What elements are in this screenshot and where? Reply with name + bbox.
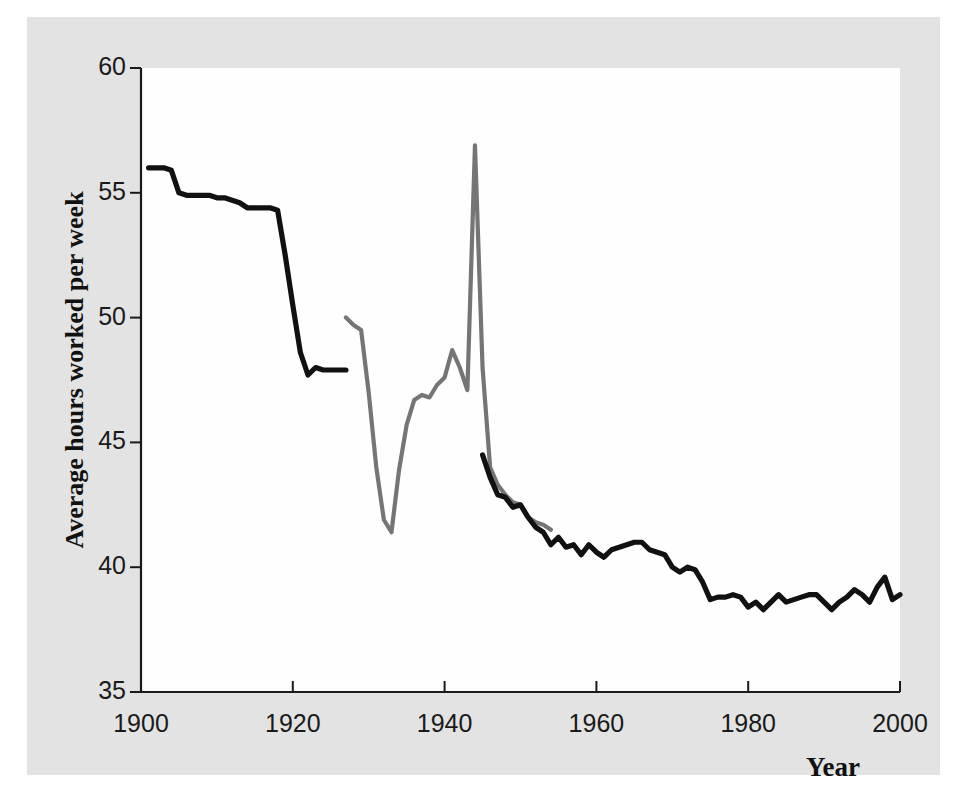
data-series-layer	[149, 145, 900, 609]
axis-lines	[141, 68, 900, 692]
x-axis-title: Year	[806, 752, 860, 783]
series-line-black-series-early	[149, 168, 346, 375]
x-axis-tick-label: 1940	[385, 709, 505, 738]
x-axis-tick-label: 1980	[688, 709, 808, 738]
x-axis-tick-label: 1900	[81, 709, 201, 738]
line-chart	[0, 0, 967, 806]
x-axis-tick-label: 2000	[840, 709, 960, 738]
figure-page: 605550454035190019201940196019802000 Ave…	[0, 0, 967, 806]
series-line-gray-series-middle	[346, 145, 551, 532]
x-axis-tick-label: 1920	[233, 709, 353, 738]
series-line-black-series-late	[483, 455, 900, 610]
y-axis-tick-label: 35	[36, 676, 126, 705]
x-axis-tick-label: 1960	[536, 709, 656, 738]
y-axis-title: Average hours worked per week	[60, 110, 90, 630]
y-axis-tick-label: 60	[36, 52, 126, 81]
